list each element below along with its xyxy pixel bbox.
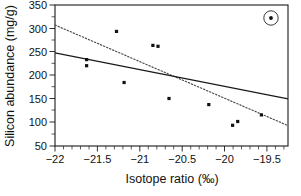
x-axis-ticks xyxy=(55,146,284,152)
x-tick-label: −19.5 xyxy=(253,153,281,165)
y-tick-label: 100 xyxy=(29,116,47,128)
scatter-plot-svg: 350 300 250 200 150 100 50 xyxy=(0,0,301,196)
data-point xyxy=(167,97,170,100)
chart-figure: 350 300 250 200 150 100 50 xyxy=(0,0,301,196)
y-tick-label: 200 xyxy=(29,69,47,81)
y-axis-title: Silicon abundance (mg/g) xyxy=(3,5,17,147)
x-tick-label: −20.5 xyxy=(168,153,196,165)
x-tick-label: −22 xyxy=(46,153,65,165)
y-tick-label: 150 xyxy=(29,93,47,105)
x-tick-label: −21.5 xyxy=(83,153,111,165)
data-point xyxy=(236,120,239,123)
y-axis-tick-labels: 350 300 250 200 150 100 50 xyxy=(29,0,47,152)
y-tick-label: 50 xyxy=(35,140,47,152)
y-axis-ticks xyxy=(50,5,56,146)
data-point xyxy=(85,58,88,61)
x-tick-label: −21 xyxy=(130,153,149,165)
data-point xyxy=(123,81,126,84)
y-tick-label: 300 xyxy=(29,23,47,35)
y-tick-label: 350 xyxy=(29,0,47,11)
x-tick-label: −20 xyxy=(215,153,234,165)
data-point xyxy=(260,113,263,116)
data-point xyxy=(231,124,234,127)
data-point xyxy=(207,103,210,106)
y-tick-label: 250 xyxy=(29,46,47,58)
data-point xyxy=(156,45,159,48)
data-point xyxy=(85,64,88,67)
data-point xyxy=(115,30,118,33)
legend-circled-dot-icon xyxy=(264,11,278,25)
x-axis-tick-labels: −22 −21.5 −21 −20.5 −20 −19.5 xyxy=(46,153,281,165)
x-axis-title: Isotope ratio (‰) xyxy=(125,172,218,186)
data-point xyxy=(151,44,154,47)
